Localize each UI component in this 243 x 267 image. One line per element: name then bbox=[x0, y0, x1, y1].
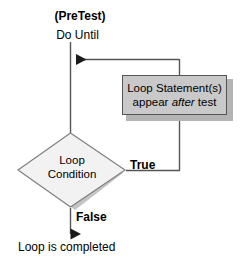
decision-label: Loop Condition bbox=[16, 153, 128, 181]
decision-line-1: Loop bbox=[16, 153, 128, 167]
true-branch-label: True bbox=[130, 159, 155, 171]
process-box: Loop Statement(s) appear after test bbox=[122, 75, 227, 115]
entry-label: Do Until bbox=[0, 29, 155, 41]
false-branch-label: False bbox=[76, 211, 107, 223]
process-line-2: appear after test bbox=[133, 95, 217, 109]
flowchart-canvas: (PreTest) Do Until Loop Statement(s) app… bbox=[0, 0, 243, 267]
exit-label: Loop is completed bbox=[18, 241, 115, 253]
process-line-2-suffix: test bbox=[195, 96, 217, 108]
process-line-2-emphasis: after bbox=[172, 96, 195, 108]
decision-line-2: Condition bbox=[16, 167, 128, 181]
process-line-1: Loop Statement(s) bbox=[127, 81, 222, 95]
pretest-title: (PreTest) bbox=[0, 10, 160, 22]
process-line-2-prefix: appear bbox=[133, 96, 172, 108]
